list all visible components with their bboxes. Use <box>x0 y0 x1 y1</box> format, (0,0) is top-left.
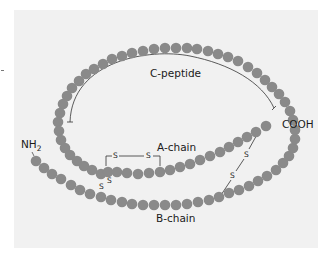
nh2-label: NH2 <box>21 139 42 153</box>
c-peptide-bead <box>285 106 296 117</box>
nh2-text: NH <box>21 138 37 150</box>
c-peptide-bead <box>107 54 118 65</box>
b-chain-bead <box>96 192 107 203</box>
b-chain-bead <box>66 180 77 191</box>
a-chain-bead <box>112 167 123 178</box>
a-chain-bead <box>175 162 186 173</box>
c-peptide-bead <box>213 49 224 60</box>
c-peptide-bead <box>233 56 244 67</box>
b-chain-bead <box>106 195 117 206</box>
disulfide-s-a7: S <box>107 177 112 185</box>
disulfide-s-a6: S <box>113 152 118 160</box>
c-peptide-bead <box>149 44 160 55</box>
b-chain-bead <box>193 197 204 208</box>
b-chain-bead <box>138 200 149 211</box>
a-b-disulfide-line-mid <box>236 159 244 171</box>
c-peptide-bead <box>55 108 66 119</box>
b-chain-bead <box>182 199 193 210</box>
c-peptide-bead <box>160 43 171 54</box>
intra-a-chain-disulfide-bracket <box>106 156 112 166</box>
c-peptide-bead <box>58 99 69 110</box>
c-peptide-bead <box>98 59 109 70</box>
c-peptide-bead <box>182 43 193 54</box>
c-peptide-bead <box>171 43 182 54</box>
c-peptide-bead <box>127 48 138 59</box>
b-chain-label: B-chain <box>156 213 195 224</box>
disulfide-s-b19: S <box>230 172 235 180</box>
b-chain-bead <box>204 195 215 206</box>
a-chain-label: A-chain <box>157 142 196 153</box>
a-chain-bead <box>242 132 253 143</box>
intra-a-chain-disulfide-bracket-right <box>153 156 160 166</box>
b-chain-bead <box>127 199 138 210</box>
b-chain-bead <box>244 181 255 192</box>
a-chain-bead <box>251 127 262 138</box>
a-chain-bead <box>224 142 235 153</box>
a-chain-bead <box>261 121 272 132</box>
a-chain-bead <box>155 167 166 178</box>
b-chain-bead <box>47 169 58 180</box>
b-chain-bead <box>171 200 182 211</box>
c-peptide-bead <box>260 75 271 86</box>
nh2-subscript: 2 <box>37 144 42 153</box>
disulfide-s-b7: S <box>99 183 104 191</box>
c-peptide-bead <box>53 117 64 128</box>
c-peptide-bead <box>117 51 128 62</box>
a-chain-bead <box>233 137 244 148</box>
c-peptide-bead <box>203 46 214 57</box>
b-chain-bead <box>31 156 42 167</box>
b-chain-bead <box>56 174 67 185</box>
b-chain-bead <box>253 176 264 187</box>
a-chain-bead <box>215 147 226 158</box>
a-chain-bead <box>122 168 133 179</box>
b-chain-bead <box>214 192 225 203</box>
cooh-label: COOH <box>282 119 314 130</box>
a-chain-bead <box>205 151 216 162</box>
nh2-pointer <box>32 152 34 156</box>
c-peptide-bead <box>54 126 65 137</box>
c-peptide-bead <box>223 52 234 63</box>
c-peptide-bead <box>252 68 263 79</box>
b-chain-bead <box>117 197 128 208</box>
a-chain-bead <box>195 155 206 166</box>
b-chain-bead <box>85 189 96 200</box>
a-chain-bead <box>185 159 196 170</box>
b-chain-bead <box>224 188 235 199</box>
c-peptide-bead <box>138 46 149 57</box>
a-chain-bead <box>144 168 155 179</box>
a-chain-bead <box>133 169 144 180</box>
b-chain-bead <box>262 171 273 182</box>
b-chain-bead <box>288 143 299 154</box>
b-chain-bead <box>234 185 245 196</box>
disulfide-s-a11: S <box>146 152 151 160</box>
disulfide-s-a20: S <box>244 151 249 159</box>
b-chain-bead <box>160 200 171 211</box>
b-chain-bead <box>149 200 160 211</box>
c-peptide-bracket-end-right <box>272 106 276 110</box>
b-chain-bead <box>75 185 86 196</box>
c-peptide-bead <box>192 44 203 55</box>
c-peptide-label: C-peptide <box>150 68 201 79</box>
a-chain-bead <box>165 165 176 176</box>
c-peptide-bead <box>243 62 254 73</box>
